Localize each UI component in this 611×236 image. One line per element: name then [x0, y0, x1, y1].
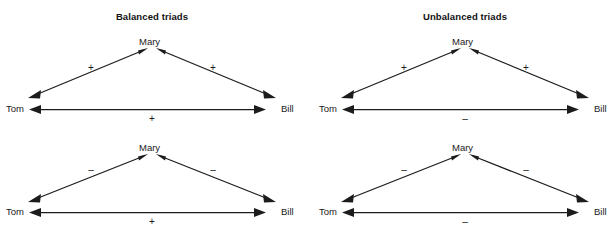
arrowhead-toward-tom — [28, 90, 41, 99]
arrowhead-toward-mary-right — [156, 154, 166, 161]
edge-mary-bill — [160, 156, 271, 200]
arrowhead-toward-mary-left — [451, 154, 461, 161]
node-label-tom: Tom — [6, 103, 24, 114]
node-label-tom: Tom — [319, 103, 337, 114]
triad-edges-layer — [0, 0, 611, 236]
arrowhead-toward-mary-left — [138, 154, 148, 161]
sign-tom-bill: – — [458, 113, 472, 124]
arrowhead-base-right — [567, 208, 579, 217]
sign-tom-bill: + — [145, 216, 159, 227]
sign-mary-tom: + — [397, 62, 411, 73]
sign-mary-tom: – — [84, 164, 98, 175]
edge-mary-tom — [33, 156, 144, 200]
arrowhead-toward-bill — [263, 194, 276, 203]
edge-mary-bill — [160, 50, 271, 96]
sign-tom-bill: – — [458, 216, 472, 227]
node-label-mary: Mary — [452, 142, 473, 153]
arrowhead-toward-tom — [28, 194, 41, 203]
node-label-bill: Bill — [594, 206, 607, 217]
arrowhead-base-left — [342, 208, 354, 217]
sign-mary-bill: + — [519, 62, 533, 73]
arrowhead-toward-bill — [576, 90, 589, 99]
node-label-mary: Mary — [139, 142, 160, 153]
node-label-mary: Mary — [452, 36, 473, 47]
arrowhead-base-right — [254, 105, 266, 114]
arrowhead-toward-tom — [341, 90, 354, 99]
node-label-mary: Mary — [139, 36, 160, 47]
node-label-bill: Bill — [281, 103, 294, 114]
arrowhead-toward-mary-right — [469, 154, 479, 161]
edge-mary-bill — [473, 156, 584, 200]
triad-unbalanced-top-edges — [341, 48, 589, 114]
node-label-bill: Bill — [281, 206, 294, 217]
balance-theory-triads-figure: Balanced triads Unbalanced triads — [0, 0, 611, 236]
arrowhead-toward-bill — [263, 90, 276, 99]
arrowhead-toward-mary-left — [138, 48, 148, 55]
sign-mary-bill: – — [206, 164, 220, 175]
triad-balanced-top-edges — [28, 48, 276, 114]
arrowhead-base-left — [29, 105, 41, 114]
edge-mary-tom — [33, 50, 144, 96]
triad-balanced-bottom-edges — [28, 154, 276, 217]
sign-mary-bill: + — [206, 62, 220, 73]
edge-mary-tom — [346, 156, 457, 200]
arrowhead-toward-mary-right — [156, 48, 166, 55]
sign-mary-tom: + — [84, 62, 98, 73]
node-label-tom: Tom — [6, 206, 24, 217]
sign-mary-bill: – — [519, 164, 533, 175]
arrowhead-base-right — [567, 105, 579, 114]
arrowhead-toward-bill — [576, 194, 589, 203]
sign-tom-bill: + — [145, 113, 159, 124]
arrowhead-toward-mary-left — [451, 48, 461, 55]
arrowhead-base-left — [29, 208, 41, 217]
edge-mary-tom — [346, 50, 457, 96]
edge-mary-bill — [473, 50, 584, 96]
node-label-bill: Bill — [594, 103, 607, 114]
arrowhead-toward-tom — [341, 194, 354, 203]
arrowhead-base-right — [254, 208, 266, 217]
sign-mary-tom: – — [397, 164, 411, 175]
arrowhead-base-left — [342, 105, 354, 114]
arrowhead-toward-mary-right — [469, 48, 479, 55]
node-label-tom: Tom — [319, 206, 337, 217]
triad-unbalanced-bottom-edges — [341, 154, 589, 217]
